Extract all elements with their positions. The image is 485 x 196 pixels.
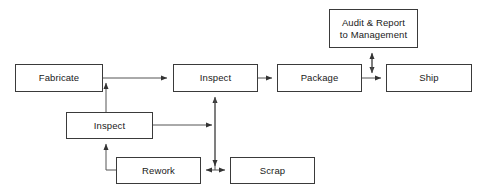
node-audit-report-label: Audit & Report to Management bbox=[340, 17, 407, 41]
node-inspect-top-label: Inspect bbox=[200, 72, 231, 84]
node-rework-label: Rework bbox=[142, 165, 175, 177]
node-fabricate-label: Fabricate bbox=[39, 72, 80, 84]
node-inspect-middle-label: Inspect bbox=[94, 120, 125, 132]
node-fabricate[interactable]: Fabricate bbox=[15, 64, 103, 92]
edge-rework-to-inspect-middle bbox=[106, 144, 116, 170]
node-inspect-middle[interactable]: Inspect bbox=[66, 112, 153, 139]
node-package[interactable]: Package bbox=[277, 64, 362, 92]
node-scrap[interactable]: Scrap bbox=[230, 157, 315, 184]
node-audit-report[interactable]: Audit & Report to Management bbox=[329, 9, 418, 48]
node-ship[interactable]: Ship bbox=[386, 64, 472, 92]
node-rework[interactable]: Rework bbox=[116, 157, 201, 184]
node-package-label: Package bbox=[301, 72, 339, 84]
node-inspect-top[interactable]: Inspect bbox=[173, 64, 258, 92]
node-scrap-label: Scrap bbox=[260, 165, 285, 177]
flowchart-diagram: Fabricate Inspect Package Ship Audit & R… bbox=[0, 0, 485, 196]
node-ship-label: Ship bbox=[419, 72, 438, 84]
